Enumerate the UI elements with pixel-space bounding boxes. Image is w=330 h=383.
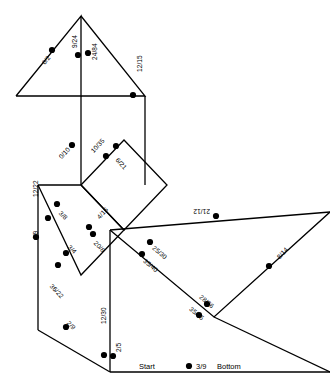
point-marker-9-24[interactable] bbox=[75, 52, 81, 58]
bottom-left-edge bbox=[38, 330, 110, 372]
point-marker-12-22[interactable] bbox=[45, 215, 51, 221]
point-marker-35-40[interactable] bbox=[139, 251, 145, 257]
label-24-84: 24/84 bbox=[92, 43, 99, 60]
point-marker-21-12[interactable] bbox=[213, 213, 219, 219]
point-marker-12-15[interactable] bbox=[130, 92, 136, 98]
point-marker-12-30[interactable] bbox=[101, 352, 107, 358]
label-12-30: 12/30 bbox=[101, 307, 108, 324]
label-4-9: 4/9 bbox=[33, 231, 40, 240]
point-marker-label-3-9[interactable] bbox=[186, 363, 192, 369]
point-marker-6-21[interactable] bbox=[113, 143, 119, 149]
start-label: Start bbox=[139, 363, 155, 371]
label-9-24: 9/24 bbox=[72, 35, 79, 48]
point-marker-25-30[interactable] bbox=[147, 239, 153, 245]
right-wing-top bbox=[110, 212, 330, 230]
point-marker-36-22[interactable] bbox=[55, 262, 61, 268]
point-marker-0-10[interactable] bbox=[69, 142, 75, 148]
label-2-5: 2/5 bbox=[116, 343, 123, 352]
point-marker-20-8[interactable] bbox=[90, 231, 96, 237]
point-marker-8-14[interactable] bbox=[266, 263, 272, 269]
point-marker-10-35[interactable] bbox=[103, 153, 109, 159]
label-12-22: 12/22 bbox=[33, 180, 40, 197]
label-12-15: 12/15 bbox=[137, 55, 144, 72]
label-3-9: 3/9 bbox=[196, 363, 206, 371]
point-marker-4-16[interactable] bbox=[86, 224, 92, 230]
diagram-canvas: 6/29/2424/8412/150/1010/356/2112/223/84/… bbox=[0, 0, 330, 383]
point-marker-2-5[interactable] bbox=[110, 353, 116, 359]
bottom-label: Bottom bbox=[217, 363, 241, 371]
point-marker-6-2[interactable] bbox=[49, 47, 55, 53]
point-marker-3-8[interactable] bbox=[54, 201, 60, 207]
label-21-12: 21/12 bbox=[193, 208, 210, 215]
